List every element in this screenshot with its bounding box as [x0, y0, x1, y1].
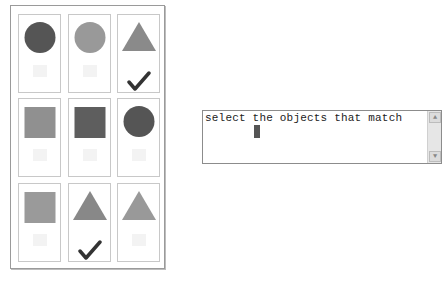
- grid-cell-9[interactable]: [117, 183, 160, 262]
- faint-placeholder-icon: [33, 149, 47, 161]
- square-shape: [24, 107, 55, 138]
- faint-placeholder-icon: [132, 149, 146, 161]
- shape-grid-panel: [10, 5, 165, 269]
- faint-placeholder-icon: [83, 65, 97, 77]
- triangle-shape: [122, 191, 156, 220]
- grid-cell-8[interactable]: [68, 183, 111, 262]
- circle-shape: [24, 22, 55, 53]
- faint-placeholder-icon: [33, 234, 47, 246]
- grid-cell-1[interactable]: [18, 14, 61, 93]
- checkmark-icon: [126, 71, 152, 91]
- triangle-shape: [73, 191, 107, 220]
- square-shape: [74, 107, 105, 138]
- circle-shape: [74, 22, 105, 53]
- grid-cell-7[interactable]: [18, 183, 61, 262]
- faint-placeholder-icon: [83, 149, 97, 161]
- grid-cell-4[interactable]: [18, 98, 61, 177]
- scroll-up-arrow-icon[interactable]: ▲: [429, 112, 441, 123]
- faint-placeholder-icon: [132, 234, 146, 246]
- grid-cell-2[interactable]: [68, 14, 111, 93]
- grid-cell-6[interactable]: [117, 98, 160, 177]
- faint-placeholder-icon: [33, 65, 47, 77]
- instruction-textarea[interactable]: select the objects that match ▲ ▼: [202, 110, 442, 164]
- grid-cell-5[interactable]: [68, 98, 111, 177]
- square-shape: [24, 192, 55, 223]
- circle-shape: [123, 106, 154, 137]
- textarea-scrollbar[interactable]: ▲ ▼: [427, 111, 441, 163]
- grid-cell-3[interactable]: [117, 14, 160, 93]
- instruction-text: select the objects that match: [205, 112, 402, 124]
- triangle-shape: [122, 22, 156, 51]
- checkmark-icon: [77, 240, 103, 260]
- scroll-down-arrow-icon[interactable]: ▼: [429, 151, 441, 162]
- text-cursor: [254, 125, 260, 138]
